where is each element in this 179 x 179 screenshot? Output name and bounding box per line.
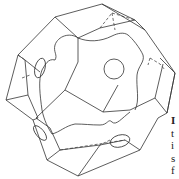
- caption-fragment: I t i s f: [171, 114, 179, 177]
- outer-outline: [6, 4, 175, 176]
- caption-letter: I: [171, 114, 179, 127]
- caption-letter: t: [171, 127, 179, 140]
- hole-center: [104, 59, 124, 79]
- caption-letter: s: [171, 152, 179, 165]
- caption-letter: i: [171, 139, 179, 152]
- caption-letter: f: [171, 164, 179, 177]
- hole-left: [33, 57, 48, 79]
- polyhedron-figure: [0, 0, 179, 179]
